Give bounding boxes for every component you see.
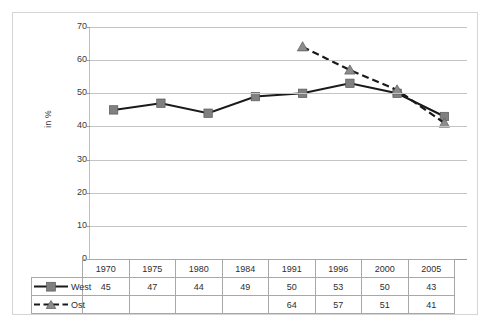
table-value-ost-1984	[222, 296, 269, 314]
legend-label-ost: Ost	[71, 300, 85, 310]
data-point-west-1996	[346, 79, 354, 87]
table-year-header-1984: 1984	[222, 260, 269, 278]
table-value-ost-1996: 57	[315, 296, 362, 314]
data-point-ost-1991	[297, 42, 307, 51]
y-tick-label: 10	[61, 221, 87, 230]
plot-area: in % 706050403020100	[13, 13, 479, 263]
solid-line-square-marker-icon	[34, 281, 68, 292]
table-year-header-1991: 1991	[269, 260, 316, 278]
gridline	[90, 193, 467, 194]
gridline	[90, 93, 467, 94]
table-value-west-1984: 49	[222, 278, 269, 296]
table-value-west-1991: 50	[269, 278, 316, 296]
table-value-west-2005: 43	[408, 278, 455, 296]
data-point-west-1980	[204, 109, 212, 117]
table-value-ost-1980	[176, 296, 223, 314]
table-value-west-1996: 53	[315, 278, 362, 296]
table-row: Ost64575141	[32, 296, 455, 314]
y-axis-tickmark	[86, 27, 90, 28]
table-year-header-1980: 1980	[176, 260, 223, 278]
table-value-ost-1991: 64	[269, 296, 316, 314]
dashed-line-triangle-marker-icon	[34, 299, 68, 310]
gridlines-and-series	[89, 27, 467, 259]
y-axis-tickmark	[86, 93, 90, 94]
y-tick-label: 70	[61, 22, 87, 31]
y-tick-label: 60	[61, 55, 87, 64]
table-value-west-1975: 47	[129, 278, 176, 296]
y-axis-tick-labels: 706050403020100	[57, 13, 87, 263]
table-corner-cell	[32, 260, 83, 278]
gridline	[90, 226, 467, 227]
data-table: 19701975198019841991199620002005 West454…	[31, 259, 455, 314]
legend-label-west: West	[71, 282, 91, 292]
legend-cell-west: West	[32, 278, 83, 296]
y-axis-tickmark	[86, 60, 90, 61]
legend-cell-ost: Ost	[32, 296, 83, 314]
table-year-header-1970: 1970	[83, 260, 130, 278]
table-value-west-1980: 44	[176, 278, 223, 296]
table-value-ost-2000: 51	[362, 296, 409, 314]
series-svg	[90, 27, 468, 259]
y-tick-label: 40	[61, 121, 87, 130]
table-year-header-2005: 2005	[408, 260, 455, 278]
y-axis-tickmark	[86, 126, 90, 127]
gridline	[90, 160, 467, 161]
table-value-ost-1975	[129, 296, 176, 314]
table-year-header-2000: 2000	[362, 260, 409, 278]
table-value-west-2000: 50	[362, 278, 409, 296]
y-axis-tickmark	[86, 226, 90, 227]
gridline	[90, 27, 467, 28]
table-row: West4547444950535043	[32, 278, 455, 296]
series-line-ost	[303, 47, 445, 123]
gridline	[90, 60, 467, 61]
table-header-row: 19701975198019841991199620002005	[32, 260, 455, 278]
y-tick-label: 30	[61, 155, 87, 164]
chart-container: in % 706050403020100 1970197519801984199…	[12, 12, 478, 315]
y-axis-tickmark	[86, 193, 90, 194]
table-value-ost-2005: 41	[408, 296, 455, 314]
table-year-header-1996: 1996	[315, 260, 362, 278]
y-tick-label: 50	[61, 88, 87, 97]
y-axis-tickmark	[86, 160, 90, 161]
table-year-header-1975: 1975	[129, 260, 176, 278]
y-tick-label: 20	[61, 188, 87, 197]
gridline	[90, 126, 467, 127]
table-value-ost-1970	[83, 296, 130, 314]
data-point-west-1970	[109, 106, 117, 114]
data-point-west-1975	[157, 99, 165, 107]
